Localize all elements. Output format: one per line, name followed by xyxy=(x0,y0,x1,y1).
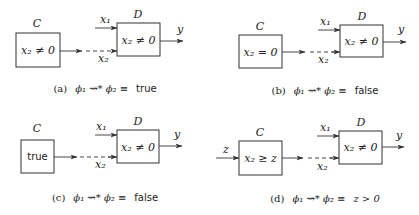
component-d-label: D xyxy=(133,115,143,128)
y-label: y xyxy=(395,129,403,142)
caption-tag: (b) xyxy=(272,85,286,96)
caption-result: true xyxy=(136,83,157,94)
diagram-canvas: C x₂ ≠ 0 x₁ x₂ D x₂ ≠ 0 y (a) ϕ₁ ⇝* ϕ₂ ≡… xyxy=(0,0,419,215)
component-d-condition: x₂ ≠ 0 xyxy=(122,34,156,47)
y-label: y xyxy=(397,23,405,36)
caption-c: (c) ϕ₁ ⇝* ϕ₂ ≡ false xyxy=(52,187,158,204)
x1-label: x₁ xyxy=(320,15,331,28)
caption-result: false xyxy=(134,192,158,203)
caption-formula: ϕ₁ ⇝* ϕ₂ ≡ xyxy=(73,192,126,203)
caption-result: false xyxy=(355,85,379,96)
panel-a: C x₂ ≠ 0 x₁ x₂ D x₂ ≠ 0 y (a) ϕ₁ ⇝* ϕ₂ ≡… xyxy=(16,8,184,95)
caption-a: (a) ϕ₁ ⇝* ϕ₂ ≡ true xyxy=(53,78,156,95)
component-d-label: D xyxy=(357,10,367,23)
caption-formula: ϕ₁ ⇝* ϕ₂ ≡ xyxy=(292,193,345,204)
x2-label: x₂ xyxy=(317,160,328,173)
caption-result: z > 0 xyxy=(352,193,380,204)
component-c-label: C xyxy=(256,20,265,33)
y-label: y xyxy=(173,128,181,141)
panel-d: z C x₂ ≥ z x₁ x₂ D x₂ ≠ 0 y (d) ϕ₁ ⇝* ϕ₂… xyxy=(216,116,404,205)
x2-label: x₂ xyxy=(98,52,109,65)
component-d-condition: x₂ ≠ 0 xyxy=(344,141,378,154)
component-c-condition: true xyxy=(27,151,48,162)
component-d-label: D xyxy=(356,116,366,129)
component-c-condition: x₂ ≠ 0 xyxy=(21,44,55,57)
y-label: y xyxy=(176,23,184,36)
component-d-condition: x₂ ≠ 0 xyxy=(345,35,379,48)
component-c-label: C xyxy=(33,17,42,30)
x2-label: x₂ xyxy=(95,158,106,171)
panel-c: C true x₁ x₂ D x₂ ≠ 0 y (c) ϕ₁ ⇝* ϕ₂ ≡ f… xyxy=(21,115,182,204)
caption-formula: ϕ₁ ⇝* ϕ₂ ≡ xyxy=(294,85,347,96)
caption-d: (d) ϕ₁ ⇝* ϕ₂ ≡ z > 0 xyxy=(270,188,380,205)
component-d-condition: x₂ ≠ 0 xyxy=(121,141,155,154)
caption-tag: (d) xyxy=(270,193,284,204)
z-label: z xyxy=(222,143,229,156)
component-c-label: C xyxy=(256,126,265,139)
component-c-condition: x₂ ≥ z xyxy=(244,152,277,165)
component-d-label: D xyxy=(133,8,143,21)
x1-label: x₁ xyxy=(100,13,111,26)
panel-b: C x₂ = 0 x₁ x₂ D x₂ ≠ 0 y (b) ϕ₁ ⇝* ϕ₂ ≡… xyxy=(239,10,406,97)
component-c-condition: x₂ = 0 xyxy=(244,46,278,59)
caption-b: (b) ϕ₁ ⇝* ϕ₂ ≡ false xyxy=(272,80,379,97)
x2-label: x₂ xyxy=(318,53,329,66)
x1-label: x₁ xyxy=(96,120,107,133)
caption-tag: (c) xyxy=(52,192,66,203)
x1-label: x₁ xyxy=(320,121,331,134)
component-c-label: C xyxy=(33,122,42,135)
caption-tag: (a) xyxy=(53,83,67,94)
caption-formula: ϕ₁ ⇝* ϕ₂ ≡ xyxy=(75,83,128,94)
